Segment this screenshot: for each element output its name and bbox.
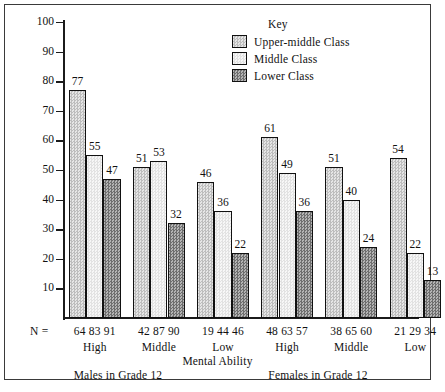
y-axis-tick-label: 40 [14,194,54,206]
bar-value-label: 51 [317,153,351,165]
bar [343,200,360,318]
y-axis-tick [56,259,64,260]
n-row: N = 64 83 9142 87 9019 44 4648 63 5738 6… [0,325,435,339]
bar [296,211,313,318]
legend-swatch-icon-middle-class [232,52,247,65]
y-axis-tick-label: 80 [14,75,54,87]
y-axis-tick [56,170,64,171]
bar [214,211,231,318]
sex-group-labels: Males in Grade 12 Females in Grade 12 [0,369,435,383]
n-group-values: 42 87 90 [128,325,190,337]
bar-value-label: 13 [416,266,445,278]
legend-item-upper-middle-class: Upper-middle Class [232,35,350,48]
bar [103,179,120,318]
bar [168,223,185,318]
bar [407,253,424,318]
legend-swatch-icon-lower-class [232,69,247,82]
ability-group-label: Middle [320,341,382,353]
bar [360,247,377,318]
ability-group-label: High [256,341,318,353]
legend-label: Middle Class [254,53,317,65]
bar-value-label: 40 [334,186,368,198]
y-axis-tick-label: 20 [14,253,54,265]
bar [150,161,167,318]
bar-value-label: 61 [253,123,287,135]
y-axis-tick-label: 70 [14,105,54,117]
bar-value-label: 32 [159,209,193,221]
bar-value-label: 54 [381,144,415,156]
y-axis-tick-label: 30 [14,223,54,235]
legend-item-lower-class: Lower Class [232,69,350,82]
bar [69,90,86,318]
y-axis-tick-label: 50 [14,164,54,176]
bar-value-label: 77 [61,76,95,88]
ability-group-label: Low [384,341,445,353]
bar-value-label: 53 [142,147,176,159]
legend-title: Key [268,18,350,30]
y-axis-tick [56,22,64,23]
n-group-values: 48 63 57 [256,325,318,337]
legend-label: Lower Class [254,70,314,82]
bar-value-label: 55 [78,141,112,153]
y-axis-tick [56,52,64,53]
ability-group-label: High [64,341,126,353]
ability-group-label: Low [192,341,254,353]
n-equals-label: N = [30,325,49,337]
legend-swatch-icon-upper-middle-class [232,35,247,48]
sex-group-label-males: Males in Grade 12 [18,369,218,381]
legend-item-middle-class: Middle Class [232,52,350,65]
n-group-values: 64 83 91 [64,325,126,337]
legend-label: Upper-middle Class [254,36,350,48]
bar [232,253,249,318]
y-axis-tick [56,288,64,289]
bar-value-label: 36 [206,197,240,209]
n-group-values: 21 29 34 [384,325,445,337]
bar-value-label: 49 [270,159,304,171]
bar-value-label: 47 [95,165,129,177]
n-group-values: 19 44 46 [192,325,254,337]
y-axis-tick-label: 60 [14,134,54,146]
bar-value-label: 22 [398,239,432,251]
bar [424,280,441,318]
y-axis-tick-label: 90 [14,46,54,58]
sex-group-label-females: Females in Grade 12 [218,369,418,381]
bar [86,155,103,318]
y-axis-tick [56,111,64,112]
bar-value-label: 46 [189,168,223,180]
y-axis-tick-label: 100 [14,16,54,28]
bar-value-label: 22 [223,239,257,251]
legend: Key Upper-middle Class Middle Class Lowe… [232,18,350,86]
bar [133,167,150,318]
bar-value-label: 24 [351,233,385,245]
bar-value-label: 36 [287,197,321,209]
y-axis-tick [56,140,64,141]
y-axis-tick [56,229,64,230]
y-axis-tick-label: 10 [14,282,54,294]
ability-group-label: Middle [128,341,190,353]
y-axis-tick [56,200,64,201]
n-group-values: 38 65 60 [320,325,382,337]
bar [279,173,296,318]
x-axis-title: Mental Ability [0,355,435,367]
